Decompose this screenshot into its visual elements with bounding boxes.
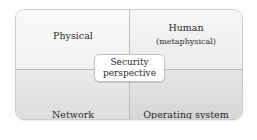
human-subtitle: (metaphysical)	[130, 37, 242, 46]
quadrant-label-operating-system: Operating system	[130, 109, 242, 120]
center-line-2: perspective	[95, 68, 164, 79]
quadrant-label-human: Human (metaphysical)	[130, 22, 242, 46]
quadrant-label-physical: Physical	[16, 30, 130, 41]
human-title: Human	[168, 22, 203, 33]
center-line-1: Security	[95, 57, 164, 68]
center-security-perspective: Security perspective	[94, 54, 165, 82]
quadrant-label-network: Network	[16, 109, 130, 120]
